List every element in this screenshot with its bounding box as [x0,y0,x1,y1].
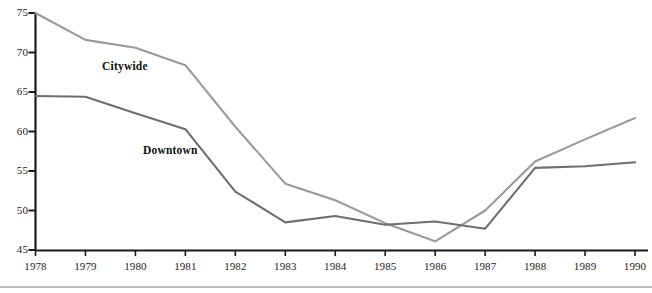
x-axis-tick-label: 1989 [563,260,607,272]
chart-plot-area [0,0,652,293]
y-axis-tick-label: 50 [2,204,28,216]
y-axis-tick-label: 65 [2,85,28,97]
bottom-divider-rule [0,286,652,288]
x-axis-tick-label: 1979 [63,260,107,272]
series-label-citywide: Citywide [102,60,148,72]
x-axis-tick-label: 1978 [14,260,58,272]
y-axis-tick-label: 60 [2,125,28,137]
y-axis-tick-label: 55 [2,164,28,176]
x-axis-tick-label: 1981 [163,260,207,272]
series-line-downtown [36,96,636,229]
series-line-citywide [36,13,636,241]
x-axis-tick-label: 1988 [513,260,557,272]
y-axis-tick-label: 75 [2,6,28,18]
x-axis-tick-label: 1990 [613,260,652,272]
y-axis-tick-label: 45 [2,243,28,255]
x-axis-tick-label: 1980 [113,260,157,272]
x-axis-tick-label: 1986 [413,260,457,272]
y-axis-tick-label: 70 [2,46,28,58]
chart-axes [35,13,648,251]
x-axis-tick-label: 1982 [213,260,257,272]
x-axis-tick-label: 1983 [263,260,307,272]
x-axis-tick-label: 1987 [463,260,507,272]
x-axis-tick-label: 1985 [363,260,407,272]
x-axis-tick-label: 1984 [313,260,357,272]
line-chart: 45505560657075 1978197919801981198219831… [0,0,652,293]
chart-series-group [36,13,636,241]
series-label-downtown: Downtown [143,144,198,156]
